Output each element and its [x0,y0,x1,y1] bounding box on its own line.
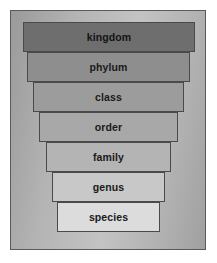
rank-label-species: species [89,212,128,223]
rank-label-kingdom: kingdom [87,32,131,43]
diagram-frame: kingdomphylumclassorderfamilygenusspecie… [10,10,206,250]
rank-band-species: species [57,202,160,232]
rank-label-class: class [95,92,122,103]
rank-label-genus: genus [93,182,124,193]
taxonomy-pyramid-figure: kingdomphylumclassorderfamilygenusspecie… [0,0,217,263]
rank-label-phylum: phylum [90,62,128,73]
rank-band-family: family [46,142,171,172]
rank-label-order: order [95,122,122,133]
rank-band-order: order [39,112,178,142]
rank-label-family: family [93,152,124,163]
rank-band-kingdom: kingdom [23,22,195,52]
rank-band-phylum: phylum [27,52,190,82]
rank-band-genus: genus [52,172,165,202]
rank-band-class: class [33,82,184,112]
rank-stack: kingdomphylumclassorderfamilygenusspecie… [11,11,205,249]
